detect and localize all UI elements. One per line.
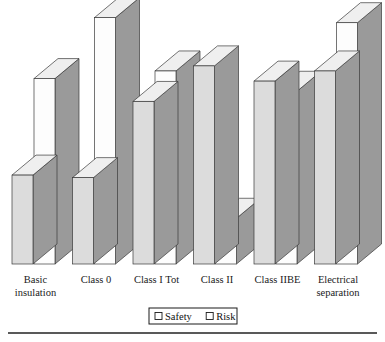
bar-safety-4 [254,61,299,264]
category-labels: BasicinsulationClass 0Class I TotClass I… [15,274,361,298]
category-label-0: insulation [15,287,57,298]
bar-front-face [133,101,154,264]
bar-side-face [336,51,360,264]
bar-safety-5 [315,51,360,264]
bar-safety-3 [194,46,239,264]
category-label-0: Basic [24,274,48,285]
legend-label-0[interactable]: Safety [165,311,193,322]
category-label-5: Electrical [318,274,358,285]
bar-side-face [215,46,239,264]
bar-side-face [275,61,299,264]
category-label-1: Class 0 [81,274,112,285]
bar-side-face [154,81,178,264]
bars-layer [12,0,382,264]
bar-chart-3d: BasicinsulationClass 0Class I TotClass I… [0,0,385,342]
legend-label-1[interactable]: Risk [216,311,236,322]
bar-side-face [358,3,382,264]
category-label-4: Class IIBE [255,274,301,285]
chart-legend[interactable]: SafetyRisk [149,308,237,324]
bar-front-face [194,66,215,264]
legend-square-outline-icon-1[interactable] [206,313,213,320]
category-label-5: separation [316,287,360,298]
chart-container: BasicinsulationClass 0Class I TotClass I… [0,0,385,342]
bar-safety-0 [12,155,57,264]
bar-front-face [315,71,336,264]
legend-square-outline-icon-0[interactable] [155,313,162,320]
bar-front-face [254,81,275,264]
category-label-2: Class I Tot [134,274,179,285]
bar-front-face [73,178,94,264]
bar-front-face [12,175,33,264]
bar-safety-1 [73,158,118,264]
category-label-3: Class II [201,274,234,285]
bar-safety-2 [133,81,178,264]
